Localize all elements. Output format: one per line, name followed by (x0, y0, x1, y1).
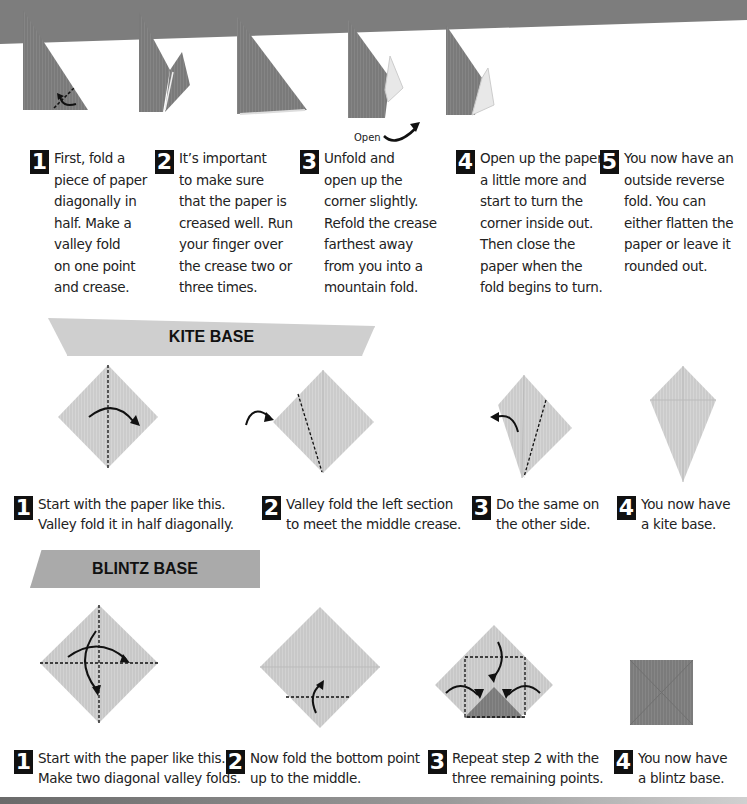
blintz-base-banner: BLINTZ BASE (30, 550, 260, 588)
blintz-step-4: 4 You now have a blintz base. (614, 748, 727, 788)
step-number-badge: 3 (472, 496, 491, 520)
step-text: Now fold the bottom point up to the midd… (250, 748, 420, 788)
step-text: Do the same on the other side. (496, 494, 599, 534)
step-number-badge: 2 (226, 750, 245, 774)
kite-base-banner: KITE BASE (48, 318, 375, 356)
step-number-badge: 3 (300, 150, 319, 174)
step-number-badge: 1 (14, 496, 33, 520)
reverse-fold-step-3: 3 Unfold and open up the corner slightly… (300, 148, 437, 299)
blintz-step-2: 2 Now fold the bottom point up to the mi… (226, 748, 420, 788)
step-number-badge: 4 (617, 496, 636, 520)
kite-step-2: 2 Valley fold the left section to meet t… (262, 494, 461, 534)
step-text: Open up the paper a little more and star… (480, 148, 603, 299)
step-number-badge: 1 (14, 750, 33, 774)
step-text: Unfold and open up the corner slightly. … (324, 148, 437, 299)
open-label: Open (354, 132, 381, 143)
step-number-badge: 2 (155, 150, 174, 174)
blintz-step-3: 3 Repeat step 2 with the three remaining… (428, 748, 603, 788)
kite-base-illustrations (0, 360, 747, 490)
blintz-step-1: 1 Start with the paper like this. Make t… (14, 748, 241, 788)
step-number-badge: 3 (428, 750, 447, 774)
kite-step-4: 4 You now have a kite base. (617, 494, 730, 534)
step-text: First, fold a piece of paper diagonally … (54, 148, 147, 299)
step-number-badge: 1 (30, 150, 49, 174)
step-text: Start with the paper like this. Valley f… (38, 494, 234, 534)
step-text: Repeat step 2 with the three remaining p… (452, 748, 603, 788)
reverse-fold-step-4: 4 Open up the paper a little more and st… (456, 148, 603, 299)
step-text: Valley fold the left section to meet the… (286, 494, 461, 534)
reverse-fold-step-5: 5 You now have an outside reverse fold. … (600, 148, 733, 277)
step-text: You now have a blintz base. (638, 748, 727, 788)
open-arrow-icon (380, 120, 425, 148)
step-text: You now have a kite base. (641, 494, 730, 534)
kite-step-1: 1 Start with the paper like this. Valley… (14, 494, 234, 534)
step-number-badge: 5 (600, 150, 619, 174)
kite-step-3: 3 Do the same on the other side. (472, 494, 599, 534)
step-text: Start with the paper like this. Make two… (38, 748, 241, 788)
step-number-badge: 4 (614, 750, 633, 774)
reverse-fold-illustrations (0, 0, 747, 130)
step-text: It’s important to make sure that the pap… (179, 148, 293, 299)
blintz-base-illustrations (0, 595, 747, 735)
bottom-page-edge (0, 797, 747, 804)
reverse-fold-step-1: 1 First, fold a piece of paper diagonall… (30, 148, 147, 299)
reverse-fold-step-2: 2 It’s important to make sure that the p… (155, 148, 293, 299)
step-number-badge: 4 (456, 150, 475, 174)
step-text: You now have an outside reverse fold. Yo… (624, 148, 733, 277)
step-number-badge: 2 (262, 496, 281, 520)
